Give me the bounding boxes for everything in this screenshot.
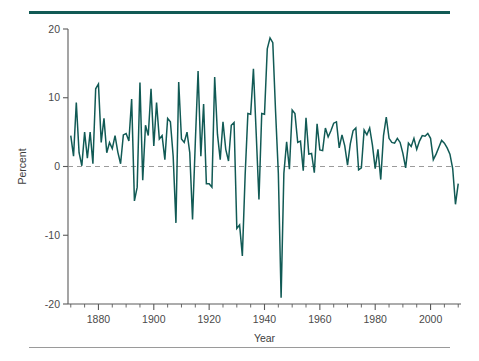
y-axis-tick-label: 0 <box>54 160 60 172</box>
x-axis-tick-label: 1960 <box>308 313 332 325</box>
x-axis-tick-label: 2000 <box>419 313 443 325</box>
line-chart: -20-10010201880190019201940196019802000Y… <box>0 14 479 346</box>
y-axis-title: Percent <box>16 148 28 184</box>
x-axis-tick-label: 1920 <box>197 313 221 325</box>
x-axis-tick-label: 1900 <box>142 313 166 325</box>
y-axis-tick-label: -10 <box>45 229 60 241</box>
bottom-rule-divider <box>29 347 450 348</box>
data-series-line <box>71 38 458 298</box>
x-axis-tick-label: 1940 <box>253 313 277 325</box>
y-axis-tick-label: 10 <box>48 91 60 103</box>
figure-root: -20-10010201880190019201940196019802000Y… <box>0 0 479 361</box>
y-axis-tick-label: -20 <box>45 298 60 310</box>
chart-plot-area: -20-10010201880190019201940196019802000Y… <box>0 14 479 346</box>
y-axis-tick-label: 20 <box>48 23 60 35</box>
x-axis-tick-label: 1980 <box>364 313 388 325</box>
x-axis-title: Year <box>254 332 276 344</box>
x-axis-tick-label: 1880 <box>87 313 111 325</box>
